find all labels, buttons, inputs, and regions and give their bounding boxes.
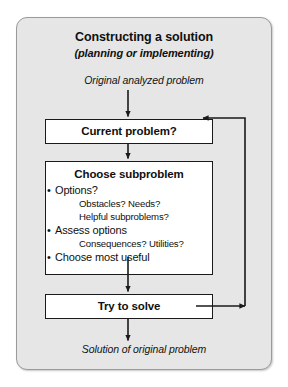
choose-subproblem-list: Options?Obstacles? Needs?Helpful subprob… — [46, 183, 212, 264]
node-choose-subproblem-heading: Choose subproblem — [46, 168, 212, 180]
node-current-problem[interactable]: Current problem? — [45, 119, 213, 144]
node-current-problem-label: Current problem? — [46, 120, 212, 142]
choose-sub-item: Obstacles? Needs? — [46, 197, 212, 210]
page-title: Constructing a solution — [17, 30, 271, 44]
choose-bullet-item: Assess options — [46, 223, 212, 237]
choose-sub-item: Consequences? Utilities? — [46, 237, 212, 250]
node-try-to-solve[interactable]: Try to solve — [45, 294, 213, 319]
diagram-canvas: Constructing a solution (planning or imp… — [0, 0, 288, 387]
page-subtitle: (planning or implementing) — [17, 47, 271, 59]
output-caption: Solution of original problem — [17, 343, 271, 355]
choose-bullet-item: Options? — [46, 183, 212, 197]
diagram-panel: Constructing a solution (planning or imp… — [16, 17, 272, 370]
choose-sub-item: Helpful subproblems? — [46, 210, 212, 223]
input-caption: Original analyzed problem — [17, 74, 271, 86]
choose-bullet-item: Choose most useful — [46, 250, 212, 264]
node-try-to-solve-label: Try to solve — [46, 295, 212, 317]
node-choose-subproblem[interactable]: Choose subproblem Options?Obstacles? Nee… — [45, 161, 213, 275]
